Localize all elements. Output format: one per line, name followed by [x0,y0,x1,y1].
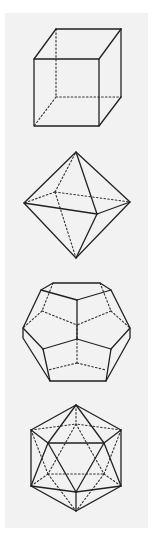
icosahedron-drawing [31,405,121,511]
dodecahedron-drawing [23,283,130,381]
platonic-solids-diagram [0,0,163,553]
octahedron-drawing [24,152,130,258]
figure-canvas: Cube Octahedron Dodecahedron Icosahedron [0,0,163,553]
cube-drawing [34,29,121,126]
